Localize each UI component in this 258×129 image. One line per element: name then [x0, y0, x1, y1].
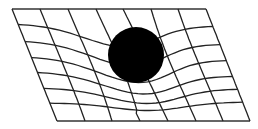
mass-sphere [108, 27, 164, 83]
spacetime-diagram [0, 0, 258, 129]
grid-row-line [44, 88, 238, 103]
